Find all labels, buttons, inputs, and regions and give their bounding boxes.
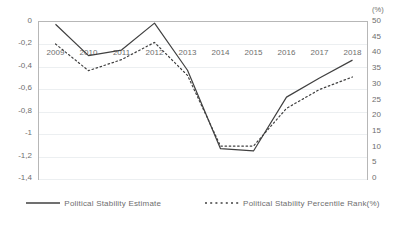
right-axis-tick-label: 35 [372,64,381,72]
right-axis-tick-label: 5 [372,158,376,166]
dotted-line-swatch [205,199,239,207]
left-axis-tick-label: -0,4 [18,62,32,70]
chart-legend: Political Stability Estimate Political S… [38,192,368,214]
legend-item-percentile-rank: Political Stability Percentile Rank(%) [205,199,380,208]
right-axis-tick-label: 40 [372,48,381,56]
political-stability-line-chart: (%) 0-0,2-0,4-0,6-0,8-1-1,2-1,4 50454035… [0,0,401,225]
left-axis-tick-label: -1,4 [18,174,32,182]
right-axis-tick-label: 30 [372,80,381,88]
right-axis-tick-label: 0 [372,174,376,182]
right-axis-tick-label: 25 [372,96,381,104]
left-axis-tick-label: -0,6 [18,84,32,92]
right-axis-tick-label: 15 [372,127,381,135]
solid-line-swatch [26,199,60,207]
legend-label-estimate: Political Stability Estimate [64,199,161,208]
right-axis-unit-label: (%) [372,6,384,14]
legend-item-estimate: Political Stability Estimate [26,199,161,208]
right-axis-tick-label: 45 [372,33,381,41]
left-axis-tick-label: 0 [28,17,32,25]
plot-area: 2009201020112012201320142015201620172018 [38,21,368,180]
right-axis-tick-label: 50 [372,17,381,25]
left-axis-tick-label: -0,8 [18,107,32,115]
left-axis-tick-label: -1,2 [18,152,32,160]
series-line-percentile-rank [56,42,353,146]
legend-label-percentile-rank: Political Stability Percentile Rank(%) [243,199,380,208]
gridline [39,179,367,180]
series-lines [39,22,369,179]
right-axis-tick-label: 10 [372,143,381,151]
series-line-estimate [56,23,353,151]
left-axis-tick-label: -0,2 [18,39,32,47]
left-axis-tick-label: -1 [25,129,32,137]
right-axis-tick-label: 20 [372,111,381,119]
